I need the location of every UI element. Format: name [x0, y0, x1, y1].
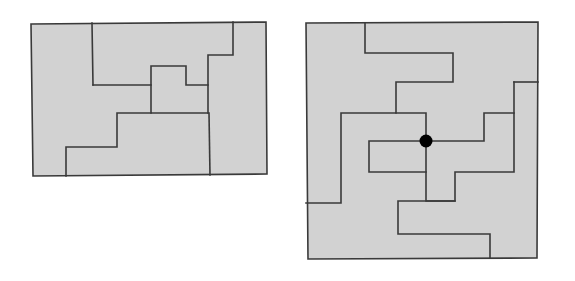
figure-canvas [0, 0, 575, 281]
rectangle-dissection-cut-left-vertical [92, 23, 93, 85]
rectangle-dissection [31, 22, 267, 176]
spiral-dissection [306, 22, 538, 259]
rectangle-dissection-cut-right-vertical [209, 113, 210, 175]
figure-panel [0, 0, 575, 281]
spiral-dissection-center-marker [420, 135, 433, 148]
figures-group [31, 22, 538, 259]
